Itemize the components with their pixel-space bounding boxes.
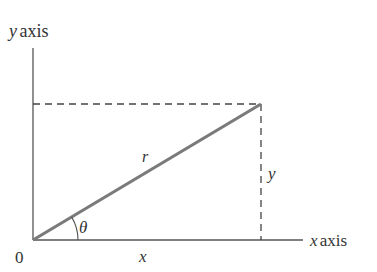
origin-label: 0 <box>15 249 24 266</box>
x-leg-label: x <box>139 248 147 265</box>
y-axis-word: axis <box>20 21 49 41</box>
angle-arc <box>72 217 78 240</box>
x-axis-var: x <box>310 231 318 250</box>
radius-label: r <box>142 149 148 165</box>
radius-line <box>33 104 261 240</box>
angle-label: θ <box>79 219 87 236</box>
x-axis-label: x axis <box>310 232 347 249</box>
y-axis-var: y <box>9 21 17 41</box>
y-leg-label: y <box>268 165 276 182</box>
y-axis-label: y axis <box>9 22 49 40</box>
x-axis-word: axis <box>320 231 347 250</box>
